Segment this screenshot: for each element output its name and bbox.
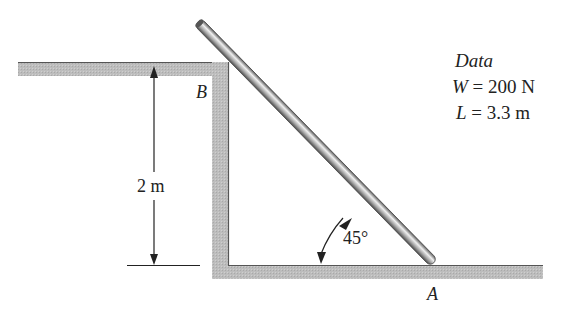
height-dimension	[127, 66, 200, 266]
arrow-down-icon	[150, 254, 158, 265]
inclined-rod	[194, 18, 437, 266]
weight-value: = 200 N	[468, 76, 535, 97]
height-label: 2 m	[137, 176, 165, 196]
arrow-down-icon	[317, 252, 326, 264]
upper-ledge	[18, 62, 229, 76]
point-b-label: B	[196, 82, 207, 102]
data-line-length: L = 3.3 m	[455, 102, 530, 123]
data-line-weight: W = 200 N	[452, 76, 535, 97]
length-value: = 3.3 m	[467, 102, 531, 123]
point-a-label: A	[426, 284, 439, 304]
diagram-canvas: 2 m 45° B A Data W = 200 N L = 3.3 m	[0, 0, 569, 310]
angle-label: 45°	[343, 228, 368, 248]
floor	[212, 265, 543, 279]
vertical-wall	[212, 62, 229, 279]
data-box: Data W = 200 N L = 3.3 m	[452, 50, 535, 123]
data-title: Data	[454, 50, 493, 71]
length-symbol: L	[455, 102, 467, 123]
